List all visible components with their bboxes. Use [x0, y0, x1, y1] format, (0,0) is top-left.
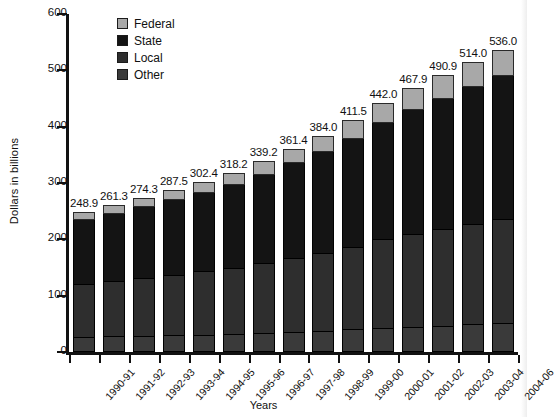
- bar-segment-federal: [163, 190, 185, 201]
- bar-segment-other: [163, 335, 185, 352]
- bar-segment-other: [432, 326, 454, 352]
- bar-segment-state: [342, 139, 364, 247]
- x-axis-tick-label: 1997-98: [312, 366, 346, 402]
- bar-segment-federal: [312, 136, 334, 152]
- legend-swatch-icon: [117, 52, 128, 63]
- x-axis-tick-mark: [189, 355, 191, 363]
- bar-value-label: 302.4: [190, 167, 218, 179]
- bar-1999-00[interactable]: 411.5: [342, 120, 364, 352]
- bar-segment-other: [223, 334, 245, 352]
- legend-swatch-icon: [117, 69, 128, 80]
- bar-value-label: 467.9: [399, 73, 427, 85]
- bar-segment-other: [312, 331, 334, 352]
- x-axis-title: Years: [0, 399, 527, 411]
- x-axis-tick-mark: [159, 355, 161, 363]
- bar-segment-federal: [492, 50, 514, 76]
- bar-segment-local: [283, 258, 305, 332]
- x-axis-tick-label: 2000-01: [402, 366, 436, 402]
- bar-segment-local: [492, 219, 514, 324]
- bar-segment-local: [402, 234, 424, 327]
- bar-segment-other: [462, 324, 484, 352]
- legend-swatch-icon: [117, 18, 128, 29]
- bar-1993-94[interactable]: 287.5: [163, 190, 185, 352]
- bar-1991-92[interactable]: 261.3: [103, 205, 125, 352]
- bar-segment-federal: [372, 103, 394, 123]
- bar-2000-01[interactable]: 442.0: [372, 103, 394, 352]
- x-axis-tick-label: 2001-02: [432, 366, 466, 402]
- legend-item-federal[interactable]: Federal: [117, 16, 175, 31]
- bar-segment-local: [223, 268, 245, 334]
- legend-item-label: Other: [134, 69, 164, 81]
- x-axis-tick-label: 1994-95: [222, 366, 256, 402]
- x-axis-tick-mark: [308, 355, 310, 363]
- bar-1994-95[interactable]: 302.4: [193, 182, 215, 352]
- y-axis-tick-label: 200: [27, 232, 67, 244]
- x-axis-tick-label: 1992-93: [162, 366, 196, 402]
- bar-1995-96[interactable]: 318.2: [223, 173, 245, 352]
- bar-1990-91[interactable]: 248.9: [73, 212, 95, 352]
- bar-2002-03[interactable]: 490.9: [432, 75, 454, 352]
- bar-segment-other: [283, 332, 305, 352]
- y-axis-tick-label: 400: [27, 120, 67, 132]
- bar-segment-other: [402, 327, 424, 352]
- bar-value-label: 318.2: [220, 158, 248, 170]
- bar-segment-local: [133, 278, 155, 336]
- bar-segment-federal: [133, 198, 155, 208]
- bar-value-label: 339.2: [250, 146, 278, 158]
- x-axis-tick-label: 1995-96: [252, 366, 286, 402]
- bar-segment-other: [73, 337, 95, 352]
- legend-item-other[interactable]: Other: [117, 67, 175, 82]
- bar-segment-state: [312, 152, 334, 253]
- y-axis-tick-label: 100: [27, 289, 67, 301]
- bar-segment-state: [103, 214, 125, 281]
- bar-1996-97[interactable]: 339.2: [253, 161, 275, 352]
- x-axis-tick-mark: [338, 355, 340, 363]
- legend-item-local[interactable]: Local: [117, 50, 175, 65]
- bar-segment-local: [342, 247, 364, 330]
- bar-segment-state: [402, 110, 424, 233]
- x-axis-tick-mark: [518, 355, 520, 363]
- x-axis-tick-label: 1993-94: [192, 366, 226, 402]
- bar-2001-02[interactable]: 467.9: [402, 88, 424, 352]
- bar-segment-federal: [342, 120, 364, 139]
- bar-1997-98[interactable]: 361.4: [283, 149, 305, 352]
- x-axis-tick-mark: [458, 355, 460, 363]
- x-axis-tick-mark: [428, 355, 430, 363]
- bar-1998-99[interactable]: 384.0: [312, 136, 334, 352]
- bar-value-label: 261.3: [100, 190, 128, 202]
- bar-segment-state: [432, 99, 454, 229]
- bar-segment-local: [372, 239, 394, 327]
- bar-segment-local: [312, 253, 334, 331]
- bar-segment-state: [223, 185, 245, 268]
- y-axis-tick-label: 600: [27, 7, 67, 19]
- legend-item-label: State: [134, 35, 162, 47]
- bar-segment-state: [253, 175, 275, 263]
- bar-value-label: 287.5: [160, 175, 188, 187]
- x-axis-tick-mark: [129, 355, 131, 363]
- chart-legend: FederalStateLocalOther: [117, 16, 175, 84]
- x-axis-tick-mark: [99, 355, 101, 363]
- bar-2003-04[interactable]: 514.0: [462, 62, 484, 352]
- x-axis-line: [66, 352, 518, 355]
- bar-segment-local: [432, 229, 454, 326]
- legend-item-label: Local: [134, 52, 163, 64]
- bar-1992-93[interactable]: 274.3: [133, 198, 155, 352]
- scan-edge-artifact: [521, 0, 527, 417]
- bar-segment-other: [492, 323, 514, 352]
- bar-segment-state: [73, 220, 95, 284]
- bar-2004-06[interactable]: 536.0: [492, 50, 514, 352]
- legend-item-state[interactable]: State: [117, 33, 175, 48]
- bar-segment-other: [193, 335, 215, 352]
- bar-value-label: 514.0: [459, 47, 487, 59]
- bar-segment-federal: [223, 173, 245, 185]
- bar-value-label: 411.5: [340, 105, 367, 117]
- bar-segment-local: [73, 284, 95, 337]
- bar-segment-local: [253, 263, 275, 333]
- bar-segment-federal: [253, 161, 275, 175]
- bar-value-label: 384.0: [310, 121, 338, 133]
- bar-segment-other: [253, 333, 275, 352]
- bar-segment-local: [193, 271, 215, 334]
- bar-value-label: 442.0: [369, 88, 397, 100]
- x-axis-tick-mark: [488, 355, 490, 363]
- x-axis-tick-mark: [219, 355, 221, 363]
